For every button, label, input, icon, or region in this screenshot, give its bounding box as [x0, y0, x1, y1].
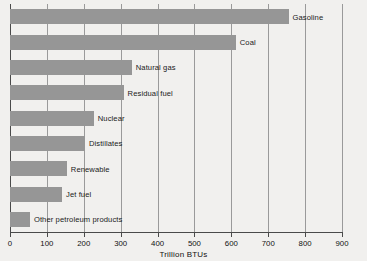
tick-mark	[342, 232, 343, 237]
tick-label: 700	[262, 239, 275, 248]
bar	[10, 60, 132, 75]
tick-mark	[121, 232, 122, 237]
bar	[10, 212, 30, 227]
x-axis	[10, 232, 342, 238]
tick-label: 600	[225, 239, 238, 248]
tick-mark	[305, 232, 306, 237]
plot-area: GasolineCoalNatural gasResidual fuelNucl…	[10, 4, 342, 232]
bar	[10, 85, 124, 100]
bar-row: Distillates	[10, 136, 342, 151]
bar-row: Renewable	[10, 161, 342, 176]
bar	[10, 35, 236, 50]
tick-mark	[158, 232, 159, 237]
bar	[10, 9, 289, 24]
bar-label: Coal	[240, 38, 256, 47]
bar-label: Other petroleum products	[34, 215, 123, 224]
tick-label: 500	[188, 239, 201, 248]
x-axis-title: Trillion BTUs	[0, 250, 367, 259]
bar	[10, 161, 67, 176]
bar-row: Coal	[10, 35, 342, 50]
bar-row: Gasoline	[10, 9, 342, 24]
tick-label: 0	[8, 239, 12, 248]
bar	[10, 187, 62, 202]
x-axis-line	[10, 232, 342, 233]
bar-row: Other petroleum products	[10, 212, 342, 227]
tick-mark	[231, 232, 232, 237]
tick-label: 900	[335, 239, 348, 248]
gridline-900	[342, 4, 343, 232]
bar	[10, 111, 94, 126]
bar-row: Nuclear	[10, 111, 342, 126]
tick-mark	[10, 232, 11, 237]
bar-row: Natural gas	[10, 60, 342, 75]
bar-row: Residual fuel	[10, 85, 342, 100]
bar-label: Nuclear	[98, 114, 125, 123]
tick-label: 200	[77, 239, 90, 248]
tick-mark	[268, 232, 269, 237]
bar-label: Jet fuel	[66, 190, 91, 199]
tick-label: 400	[151, 239, 164, 248]
bar-label: Natural gas	[136, 63, 176, 72]
tick-label: 100	[40, 239, 53, 248]
bar-row: Jet fuel	[10, 187, 342, 202]
bar-label: Gasoline	[293, 12, 324, 21]
tick-label: 300	[114, 239, 127, 248]
tick-mark	[194, 232, 195, 237]
bar	[10, 136, 85, 151]
tick-mark	[84, 232, 85, 237]
tick-label: 800	[299, 239, 312, 248]
tick-mark	[47, 232, 48, 237]
bar-label: Residual fuel	[128, 88, 173, 97]
bar-label: Renewable	[71, 164, 110, 173]
bar-label: Distillates	[89, 139, 123, 148]
bar-chart: GasolineCoalNatural gasResidual fuelNucl…	[0, 0, 367, 261]
